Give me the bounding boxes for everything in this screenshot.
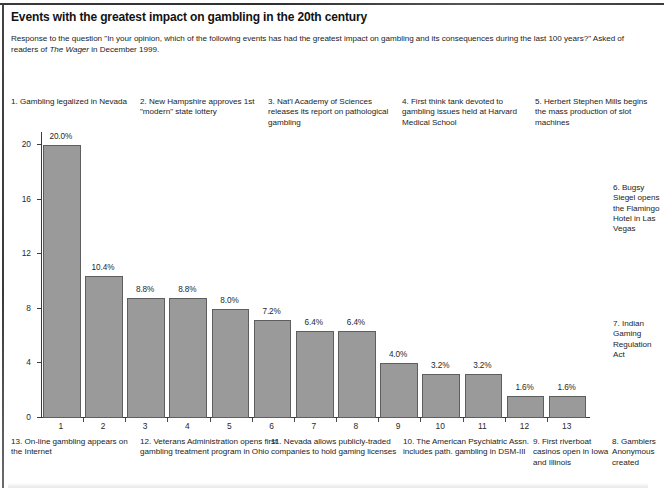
bar-label-1: 20.0% [39,132,83,141]
bar-6 [254,320,292,418]
annotation-6: 6. Bugsy Siegel opens the Flamingo Hotel… [613,183,661,234]
x-tick-label-12: 12 [510,421,540,431]
y-tick-mark [37,308,41,309]
bar-label-9: 4.0% [376,350,420,359]
x-tick-mark [336,418,337,422]
page-subtitle: Response to the question "In your opinio… [11,33,651,56]
bar-11 [465,374,503,418]
y-tick-mark [37,144,41,145]
bar-label-4: 8.8% [165,285,209,294]
bar-13 [549,396,587,418]
bar-label-8: 6.4% [334,318,378,327]
y-tick-label: 16 [5,194,31,204]
y-tick-mark [37,199,41,200]
annotation-4: 4. First think tank devoted to gambling … [402,97,524,128]
annotation-5: 5. Herbert Stephen Mills begins the mass… [535,97,659,128]
x-tick-label-9: 9 [383,421,413,431]
x-tick-mark [125,418,126,422]
bar-1 [43,145,81,418]
bar-10 [422,374,460,418]
x-tick-mark [210,418,211,422]
x-tick-label-5: 5 [214,421,244,431]
y-tick-label: 12 [5,248,31,258]
x-tick-label-10: 10 [425,421,455,431]
bar-label-3: 8.8% [123,285,167,294]
bar-4 [169,298,207,418]
annotation-7: 7. Indian Gaming Regulation Act [613,319,661,360]
scan-left-rule [2,5,4,488]
y-tick-mark [37,362,41,363]
annotation-9: 9. First riverboat casinos open in Iowa … [533,437,609,468]
bar-label-12: 1.6% [503,383,547,392]
bar-3 [127,298,165,418]
bar-12 [507,396,545,418]
x-tick-label-8: 8 [341,421,371,431]
x-tick-mark [167,418,168,422]
x-tick-label-7: 7 [299,421,329,431]
x-tick-label-6: 6 [257,421,287,431]
page-title: Events with the greatest impact on gambl… [11,10,367,24]
annotation-2: 2. New Hampshire approves 1st "modern" s… [140,97,265,118]
annotation-8: 8. Gamblers Anonymous created [612,437,662,468]
annotation-10: 10. The American Psychiatric Assn. inclu… [403,437,541,458]
bar-label-5: 8.0% [207,296,251,305]
y-tick-label: 4 [5,357,31,367]
x-tick-mark [505,418,506,422]
x-tick-mark [378,418,379,422]
bar-7 [296,331,334,418]
x-tick-mark [83,418,84,422]
x-tick-label-1: 1 [46,421,76,431]
bars-layer [42,128,590,418]
x-tick-label-2: 2 [88,421,118,431]
x-tick-mark [420,418,421,422]
bar-9 [380,363,418,418]
y-tick-label: 20 [5,139,31,149]
bar-label-13: 1.6% [545,383,589,392]
x-tick-mark [547,418,548,422]
x-tick-label-13: 13 [552,421,582,431]
bar-8 [338,331,376,418]
bar-label-2: 10.4% [81,263,125,272]
scan-bottom-smudge [8,483,648,488]
y-tick-label: 8 [5,303,31,313]
chart-page: Events with the greatest impact on gambl… [0,0,664,488]
x-tick-label-4: 4 [172,421,202,431]
annotation-11: 11. Nevada allows publicly-traded compan… [271,437,401,458]
annotation-3: 3. Nat'l Academy of Sciences releases it… [268,97,390,128]
x-tick-mark [294,418,295,422]
bar-2 [85,276,123,418]
bar-label-11: 3.2% [460,361,504,370]
scan-top-rule [0,3,664,5]
y-tick-mark [37,417,41,418]
y-tick-mark [37,253,41,254]
annotation-13: 13. On-line gambling appears on the Inte… [11,437,133,458]
x-tick-label-11: 11 [467,421,497,431]
bar-label-6: 7.2% [250,307,294,316]
x-tick-label-3: 3 [130,421,160,431]
y-tick-label: 0 [5,412,31,422]
x-tick-mark [463,418,464,422]
annotation-1: 1. Gambling legalized in Nevada [11,97,129,107]
bar-5 [212,309,250,418]
annotation-12: 12. Veterans Administration opens first … [140,437,280,458]
subtitle-publication: The Wager [49,45,89,54]
subtitle-text-2: in December 1999. [89,45,159,54]
bar-label-7: 6.4% [292,318,336,327]
x-tick-mark [252,418,253,422]
bar-label-10: 3.2% [418,361,462,370]
